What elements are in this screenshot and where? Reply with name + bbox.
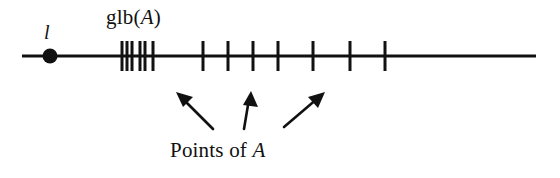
lower-bound-dot <box>43 49 58 64</box>
glb-label-arg: A <box>141 5 154 29</box>
points-caption-arg: A <box>253 138 266 162</box>
glb-label-suffix: ) <box>154 5 161 29</box>
glb-label: glb(A) <box>106 7 161 28</box>
points-caption: Points of A <box>170 140 266 161</box>
arrow-left <box>176 92 213 129</box>
arrow-right <box>284 92 325 127</box>
points-caption-prefix: Points of <box>170 138 253 162</box>
arrow-middle <box>243 91 258 129</box>
glb-label-prefix: glb( <box>106 5 141 29</box>
number-line-figure: glb(A) l Points of A <box>0 0 560 178</box>
number-line-graphic <box>0 0 560 178</box>
lower-bound-label: l <box>44 22 50 42</box>
